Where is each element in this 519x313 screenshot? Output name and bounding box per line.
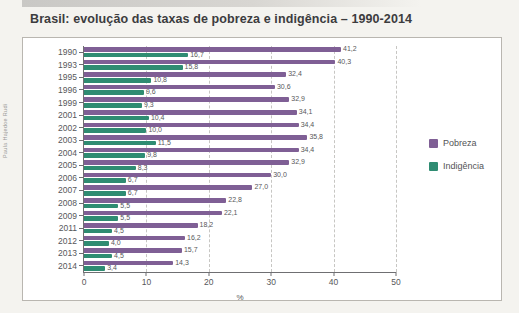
bar-group: 32,410,8 (84, 71, 396, 84)
value-label: 22,8 (228, 198, 242, 203)
pobreza-swatch (429, 139, 438, 148)
year-label: 2006 (29, 172, 83, 185)
bar-group: 34,110,4 (84, 109, 396, 122)
year-label: 2003 (29, 134, 83, 147)
year-label: 2007 (29, 184, 83, 197)
bar-group: 32,99,3 (84, 96, 396, 109)
year-label: 2005 (29, 159, 83, 172)
credit-vertical-text: Paula Hajedoe Rudi (2, 38, 8, 158)
bar-indigencia (84, 229, 112, 234)
value-label: 4,5 (114, 229, 124, 234)
value-label: 11,5 (158, 141, 171, 146)
x-tick (146, 272, 147, 276)
bar-pobreza (84, 248, 182, 253)
value-label: 32,4 (288, 72, 302, 77)
year-label: 2001 (29, 109, 83, 122)
bar-indigencia (84, 78, 151, 83)
year-label: 1999 (29, 96, 83, 109)
bar-pobreza (84, 160, 289, 165)
year-label: 2012 (29, 234, 83, 247)
year-label: 1996 (29, 84, 83, 97)
value-label: 27,0 (254, 185, 268, 190)
plot-area: 41,216,740,315,832,410,830,69,632,99,334… (83, 46, 396, 273)
x-axis-ticks: % 01020304050 (84, 272, 396, 302)
x-tick-label: 20 (204, 277, 213, 287)
year-label: 2011 (29, 222, 83, 235)
bar-indigencia (84, 90, 144, 95)
value-label: 5,5 (120, 204, 130, 209)
x-tick (396, 272, 397, 276)
bar-pobreza (84, 148, 299, 153)
bar-group: 34,410,0 (84, 121, 396, 134)
value-label: 15,8 (185, 65, 199, 70)
x-tick (271, 272, 272, 276)
value-label: 6,7 (128, 178, 138, 183)
bar-pobreza (84, 173, 271, 178)
bar-group: 14,33,4 (84, 260, 396, 273)
value-label: 10,4 (151, 116, 165, 121)
year-label: 2014 (29, 260, 83, 273)
value-label: 9,6 (146, 90, 156, 95)
x-tick (84, 272, 85, 276)
bar-pobreza (84, 47, 341, 52)
bar-group: 15,74,5 (84, 247, 396, 260)
value-label: 34,4 (301, 148, 315, 153)
bar-indigencia (84, 166, 136, 171)
value-label: 16,7 (190, 53, 204, 58)
bar-pobreza (84, 72, 286, 77)
value-label: 9,3 (144, 103, 154, 108)
value-label: 4,0 (111, 241, 121, 246)
bar-pobreza (84, 211, 222, 216)
value-label: 32,9 (291, 160, 305, 165)
value-label: 40,3 (337, 60, 351, 65)
bar-pobreza (84, 85, 275, 90)
bar-group: 16,24,0 (84, 234, 396, 247)
value-label: 34,4 (301, 123, 315, 128)
bar-pobreza (84, 198, 226, 203)
bar-pobreza (84, 185, 252, 190)
x-tick-label: 40 (329, 277, 338, 287)
bar-pobreza (84, 135, 307, 140)
bar-indigencia (84, 128, 146, 133)
year-label: 2008 (29, 197, 83, 210)
bar-group: 40,315,8 (84, 59, 396, 72)
bar-indigencia (84, 141, 156, 146)
bar-indigencia (84, 266, 105, 271)
bar-indigencia (84, 53, 188, 58)
value-label: 10,8 (153, 78, 167, 83)
chart-title: Brasil: evolução das taxas de pobreza e … (30, 12, 505, 26)
value-label: 30,0 (273, 173, 287, 178)
value-label: 35,8 (309, 135, 323, 140)
bar-group: 22,15,5 (84, 209, 396, 222)
bar-group: 35,811,5 (84, 134, 396, 147)
x-tick-label: 10 (142, 277, 151, 287)
legend-item-indigencia: Indigência (429, 161, 501, 171)
value-label: 30,6 (277, 85, 291, 90)
gridline (396, 46, 397, 272)
value-label: 22,1 (224, 211, 238, 216)
bar-group: 34,49,8 (84, 147, 396, 160)
bar-pobreza (84, 223, 198, 228)
value-label: 3,4 (107, 266, 117, 271)
bar-indigencia (84, 153, 145, 158)
value-label: 32,9 (291, 97, 305, 102)
year-label: 1993 (29, 59, 83, 72)
bar-indigencia (84, 191, 126, 196)
bar-group: 32,98,3 (84, 159, 396, 172)
chart-card: 1990199319951996199920012002200320042005… (22, 37, 502, 301)
year-label: 1990 (29, 46, 83, 59)
value-label: 14,3 (175, 261, 189, 266)
bar-indigencia (84, 241, 109, 246)
legend-label-indigencia: Indigência (443, 161, 484, 171)
value-label: 10,0 (148, 128, 162, 133)
bar-indigencia (84, 216, 118, 221)
bar-rows: 41,216,740,315,832,410,830,69,632,99,334… (84, 46, 396, 272)
bar-indigencia (84, 178, 126, 183)
bar-indigencia (84, 254, 112, 259)
value-label: 9,8 (147, 153, 157, 158)
value-label: 4,5 (114, 254, 124, 259)
y-labels: 1990199319951996199920012002200320042005… (29, 46, 83, 272)
bar-pobreza (84, 261, 173, 266)
value-label: 8,3 (138, 166, 148, 171)
x-tick (333, 272, 334, 276)
